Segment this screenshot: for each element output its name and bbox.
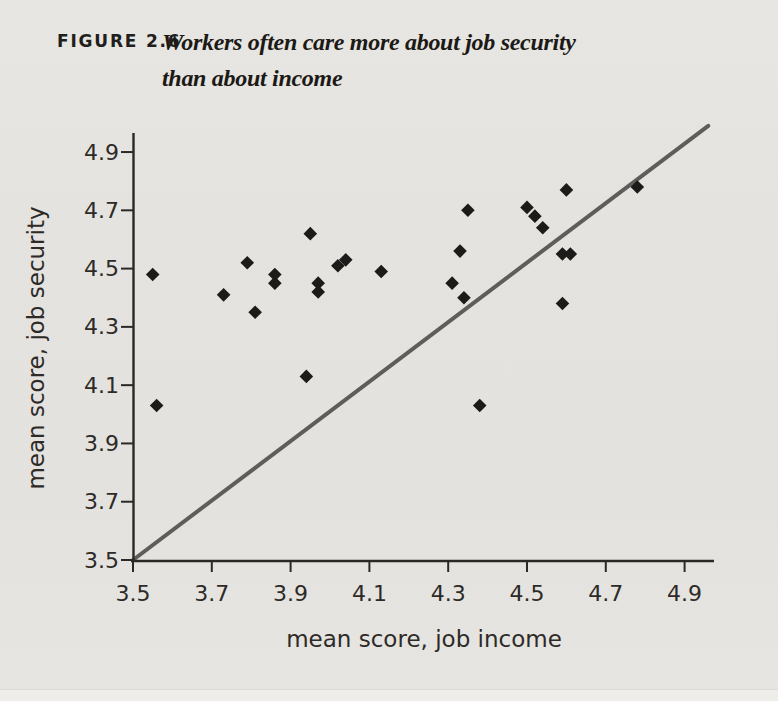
x-tick-label: 4.3 (431, 581, 466, 606)
data-point (564, 247, 578, 261)
y-tick-label: 4.1 (84, 373, 119, 398)
data-point (536, 221, 550, 235)
data-point (445, 276, 459, 290)
data-point (461, 204, 475, 218)
x-tick-label: 3.5 (116, 581, 151, 606)
data-point (473, 399, 487, 413)
data-point (304, 227, 318, 241)
y-tick-label: 3.7 (84, 489, 119, 514)
y-tick-label: 4.5 (84, 256, 119, 281)
data-point (150, 399, 164, 413)
x-tick-label: 4.7 (588, 581, 623, 606)
page-bottom-edge (0, 689, 778, 701)
data-point (217, 288, 231, 302)
data-point (556, 297, 570, 311)
data-point (248, 306, 262, 320)
x-tick-label: 4.1 (352, 581, 387, 606)
x-tick-label: 3.7 (194, 581, 229, 606)
data-point (300, 370, 314, 384)
data-point (268, 276, 282, 290)
y-tick-label: 3.9 (84, 431, 119, 456)
data-point (560, 183, 574, 197)
data-point (146, 268, 160, 282)
y-axis-title: mean score, job security (23, 206, 49, 489)
x-tick-label: 4.9 (667, 581, 702, 606)
data-point (453, 244, 467, 258)
data-point (240, 256, 254, 270)
data-point (457, 291, 471, 305)
x-axis-title: mean score, job income (286, 626, 562, 652)
data-point (374, 265, 388, 279)
identity-line (133, 126, 708, 560)
data-point (311, 285, 325, 299)
y-tick-label: 3.5 (84, 548, 119, 573)
data-point (528, 209, 542, 223)
y-tick-label: 4.7 (84, 198, 119, 223)
data-point (520, 201, 534, 215)
book-page: { "page": { "background": "#e4e3df" }, "… (0, 0, 778, 701)
x-tick-label: 4.5 (510, 581, 545, 606)
y-tick-label: 4.3 (84, 314, 119, 339)
scatter-chart: 3.53.73.94.14.34.54.74.93.53.73.94.14.34… (0, 0, 778, 701)
x-tick-label: 3.9 (273, 581, 308, 606)
y-tick-label: 4.9 (84, 140, 119, 165)
